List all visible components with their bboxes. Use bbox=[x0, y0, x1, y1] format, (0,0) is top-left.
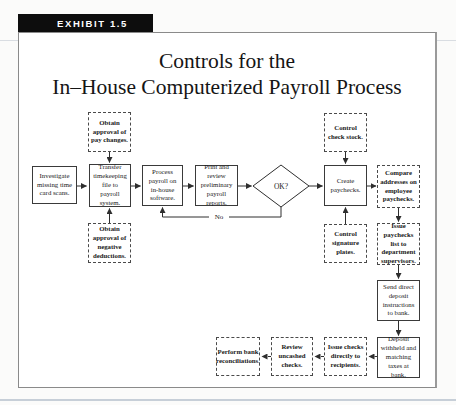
flow-node-investigate-missing-time-cards: Investigate missing time card scans. bbox=[32, 166, 77, 204]
flow-node-send-direct-deposit: Send direct deposit instructions to bank… bbox=[377, 280, 420, 321]
exhibit-label: EXHIBIT 1.5 bbox=[43, 18, 128, 29]
decision-label: OK? bbox=[263, 182, 299, 191]
flow-node-print-review-reports: Print and review preliminary payroll rep… bbox=[195, 165, 238, 206]
title-line-1: Controls for the bbox=[19, 48, 435, 74]
control-node-issue-paychecks-list: Issue paychecks list to department super… bbox=[377, 223, 420, 265]
flow-node-create-paychecks: Create paychecks. bbox=[324, 165, 367, 206]
page: EXHIBIT 1.5 Controls for the In–House Co… bbox=[0, 0, 456, 405]
control-node-compare-addresses: Compare addresses on employee paychecks. bbox=[377, 165, 420, 208]
no-branch-label: No bbox=[209, 213, 229, 222]
exhibit-tag: EXHIBIT 1.5 bbox=[18, 14, 153, 32]
flow-node-deposit-taxes: Deposit withheld and matching taxes at b… bbox=[377, 337, 420, 378]
control-node-review-uncashed-checks: Review uncashed checks. bbox=[271, 337, 313, 376]
control-node-signature-plates: Control signature plates. bbox=[324, 224, 367, 263]
control-node-issue-checks-directly: Issue checks directly to recipients. bbox=[324, 337, 367, 376]
flow-node-process-payroll: Process payroll on in-house software. bbox=[142, 165, 183, 206]
control-node-approve-pay-changes: Obtain approval of pay changes. bbox=[88, 112, 131, 152]
control-node-bank-reconciliations: Perform bank reconciliations. bbox=[216, 337, 260, 376]
flow-node-transfer-timekeeping-file: Transfer timekeeping file to payroll sys… bbox=[89, 164, 131, 207]
control-node-approve-negative-deductions: Obtain approval of negative deductions. bbox=[88, 223, 131, 263]
control-node-check-stock: Control check stock. bbox=[324, 113, 367, 152]
title-line-2: In–House Computerized Payroll Process bbox=[19, 74, 435, 100]
diagram-title: Controls for the In–House Computerized P… bbox=[19, 48, 435, 100]
page-rule-bottom bbox=[0, 399, 456, 401]
diagram-frame: Controls for the In–House Computerized P… bbox=[18, 32, 437, 388]
